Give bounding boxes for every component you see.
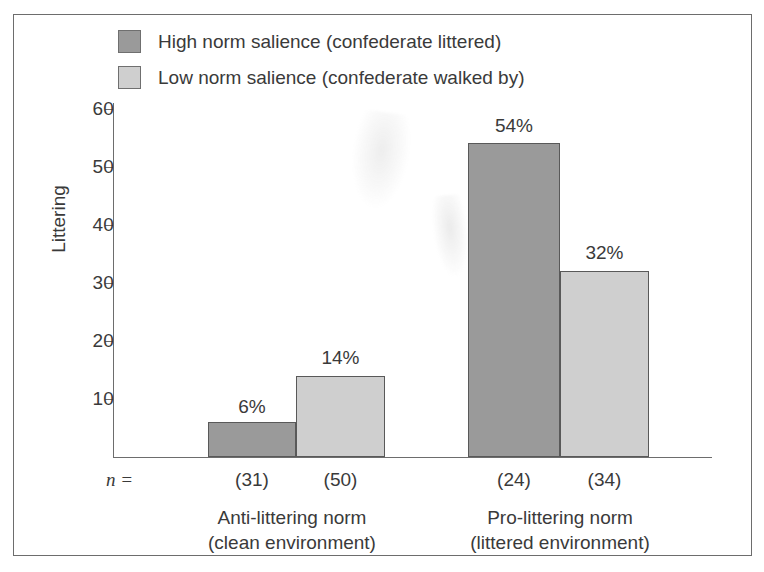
x-axis-line (113, 457, 712, 458)
n-value-label: (34) (560, 470, 649, 489)
dark-gray-swatch-icon (118, 30, 141, 53)
legend-item-low-norm-salience[interactable]: Low norm salience (confederate walked by… (118, 62, 524, 93)
y-tick-label-40: 40 (68, 215, 114, 234)
bar-value-label: 6% (208, 397, 296, 416)
y-tick-label-10: 10 (68, 389, 114, 408)
n-equals-label: n = (106, 470, 133, 489)
group-label-line-2: (littered environment) (449, 530, 671, 555)
legend-item-label: Low norm salience (confederate walked by… (158, 68, 524, 87)
bar-low-salience-pro-littering[interactable] (560, 271, 649, 457)
bar-value-label: 14% (296, 348, 385, 367)
y-tick-label-20: 20 (68, 331, 114, 350)
bar-value-label: 54% (468, 116, 560, 135)
bar-high-salience-anti-littering[interactable] (208, 422, 296, 457)
figure-canvas: 60 50 40 30 20 10 Littering High norm sa (0, 0, 764, 572)
light-gray-swatch-icon (118, 66, 141, 89)
bar-low-salience-anti-littering[interactable] (296, 376, 385, 457)
bar-value-label: 32% (560, 243, 649, 262)
scan-smudge-artifact (430, 193, 472, 278)
legend: High norm salience (confederate littered… (118, 26, 524, 98)
legend-item-label: High norm salience (confederate littered… (158, 32, 501, 51)
group-label-anti-littering: Anti-littering norm (clean environment) (186, 505, 398, 555)
scan-smudge-artifact (346, 109, 415, 212)
legend-item-high-norm-salience[interactable]: High norm salience (confederate littered… (118, 26, 524, 57)
group-label-line-2: (clean environment) (186, 530, 398, 555)
y-tick-label-60: 60 (68, 99, 114, 118)
y-tick-label-30: 30 (68, 273, 114, 292)
group-label-line-1: Pro-littering norm (449, 505, 671, 530)
y-tick-label-50: 50 (68, 157, 114, 176)
n-value-label: (50) (296, 470, 385, 489)
y-axis-title: Littering (48, 174, 70, 264)
plot-area: 60 50 40 30 20 10 Littering High norm sa (0, 0, 764, 572)
group-label-pro-littering: Pro-littering norm (littered environment… (449, 505, 671, 555)
bar-high-salience-pro-littering[interactable] (468, 143, 560, 457)
n-value-label: (31) (208, 470, 296, 489)
group-label-line-1: Anti-littering norm (186, 505, 398, 530)
n-value-label: (24) (468, 470, 560, 489)
